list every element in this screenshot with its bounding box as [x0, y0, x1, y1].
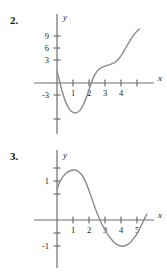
problem-3-number: 3. — [10, 150, 18, 162]
problem-3-figure: 1 2 3 4 5 1 -1 x y — [30, 136, 167, 272]
graph-3-svg: 1 2 3 4 5 1 -1 x y — [30, 136, 167, 272]
graph-2-ytick-6: 6 — [45, 43, 49, 53]
worksheet-page: 2. — [0, 0, 167, 272]
graph-2-y-axis-letter: y — [62, 12, 67, 22]
problem-2-figure: 1 2 3 4 9 6 3 -3 x y — [30, 0, 167, 136]
graph-3-ytick-neg1: -1 — [42, 241, 49, 251]
graph-3-x-axis-letter: x — [157, 210, 162, 220]
graph-2-x-axis-letter: x — [157, 73, 162, 83]
problem-2-number: 2. — [10, 14, 18, 26]
problem-3: 3. — [0, 136, 167, 272]
graph-3-ytick-1: 1 — [45, 176, 49, 186]
graph-3-xtick-4: 4 — [119, 225, 124, 235]
problem-2: 2. — [0, 0, 167, 136]
graph-3-y-axis-letter: y — [62, 150, 67, 160]
graph-2-xtick-4: 4 — [119, 88, 124, 98]
graph-2-ytick-9: 9 — [45, 31, 49, 41]
graph-2-ytick-3: 3 — [45, 55, 49, 65]
graph-2-xtick-3: 3 — [103, 88, 107, 98]
graph-3-xtick-2: 2 — [87, 225, 91, 235]
graph-2-curve — [57, 29, 140, 113]
graph-2-svg: 1 2 3 4 9 6 3 -3 x y — [30, 0, 167, 136]
graph-2-xtick-1: 1 — [71, 88, 75, 98]
graph-2-ytick-neg3: -3 — [42, 90, 49, 100]
graph-3-xtick-1: 1 — [71, 225, 75, 235]
